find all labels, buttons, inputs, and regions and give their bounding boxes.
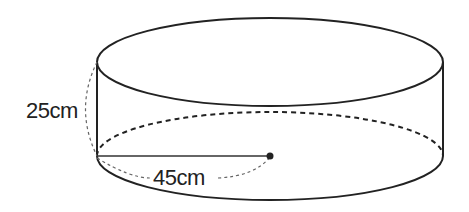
bottom-hidden-arc <box>97 112 443 156</box>
top-face-ellipse <box>97 18 443 106</box>
radius-dimension-arc-right <box>218 157 270 178</box>
height-label: 25cm <box>26 100 78 122</box>
height-dimension-arc <box>86 62 98 156</box>
center-point <box>267 153 274 160</box>
radius-label: 45cm <box>153 167 205 189</box>
